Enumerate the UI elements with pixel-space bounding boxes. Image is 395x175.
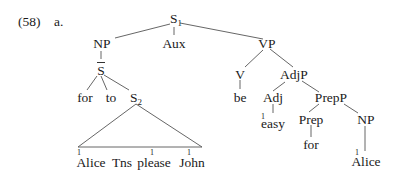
node-prepp: PrepP [315,91,347,105]
leaf-alice-object: Alice [351,155,380,169]
node-adjp: AdjP [280,68,308,82]
leaf-be: be [234,91,247,105]
node-aux: Aux [162,37,185,51]
node-v: V [235,68,245,82]
leaf-easy: easy [261,117,285,131]
node-s1: S1 [170,12,182,28]
example-number: (58) [18,15,41,29]
node-prep: Prep [299,113,324,127]
node-to: to [106,91,117,105]
leaf-for-preposition: for [303,138,319,152]
node-vp: VP [258,37,275,51]
node-s1-label: S [170,11,178,26]
node-adj: Adj [263,91,283,105]
node-s1-subscript: 1 [178,18,183,28]
node-s2-label: S [130,90,138,105]
leaf-please: please [137,156,171,170]
node-np: NP [93,37,110,51]
leaf-john: John [179,156,205,170]
node-sbar: S [97,64,105,78]
leaf-tns: Tns [112,156,132,170]
node-s2: S2 [130,91,142,107]
node-np-object: NP [357,113,374,127]
node-for-complementizer: for [77,91,93,105]
node-s2-subscript: 2 [138,97,143,107]
example-sublabel: a. [54,15,63,29]
leaf-alice: Alice [76,156,105,170]
